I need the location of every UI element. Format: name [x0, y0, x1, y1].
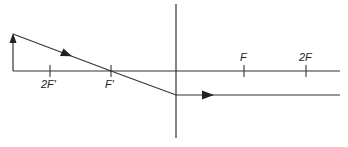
refracted-ray-direction-arrow-icon	[202, 91, 214, 100]
label-2f-prime: 2F′	[40, 78, 57, 90]
label-f: F	[240, 51, 248, 63]
object-arrow	[10, 33, 17, 71]
ray-direction-arrow-icon	[60, 49, 72, 57]
lens-ray-diagram: 2F′ F′ F 2F	[0, 0, 348, 147]
label-2f: 2F	[298, 51, 313, 63]
label-f-prime: F′	[105, 78, 115, 90]
